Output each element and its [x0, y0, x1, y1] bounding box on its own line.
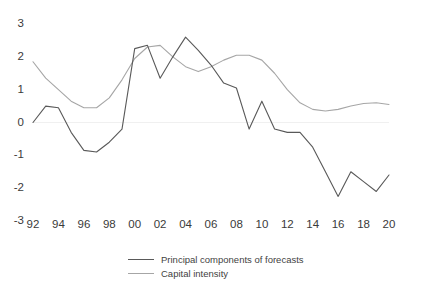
legend-item-capital-intensity: Capital intensity: [128, 266, 304, 280]
x-axis-tick-label: 10: [250, 219, 274, 231]
y-axis-tick-label: -2: [2, 182, 24, 194]
y-axis-tick-label: 3: [2, 18, 24, 30]
x-axis-tick-label: 00: [123, 219, 147, 231]
series-line-principal-components: [33, 37, 389, 196]
x-axis-tick-label: 16: [326, 219, 350, 231]
x-axis-tick-label: 94: [46, 219, 70, 231]
y-axis-tick-label: -1: [2, 149, 24, 161]
chart-legend: Principal components of forecasts Capita…: [128, 252, 304, 280]
series-canvas: [0, 0, 422, 240]
x-axis-tick-label: 12: [275, 219, 299, 231]
y-axis-tick-label: 1: [2, 84, 24, 96]
x-axis-tick-label: 08: [224, 219, 248, 231]
x-axis-tick-label: 14: [301, 219, 325, 231]
legend-label-principal-components: Principal components of forecasts: [161, 254, 304, 265]
plot-area: 3210-1-2-3 92949698000204060810121416182…: [0, 0, 422, 240]
x-axis-tick-label: 06: [199, 219, 223, 231]
x-axis-tick-label: 96: [72, 219, 96, 231]
x-axis-tick-label: 92: [21, 219, 45, 231]
x-axis-tick-label: 02: [148, 219, 172, 231]
legend-swatch-icon-principal-components: [128, 259, 154, 260]
x-axis-tick-label: 18: [352, 219, 376, 231]
y-axis-tick-label: 0: [2, 117, 24, 129]
x-axis-tick-label: 04: [174, 219, 198, 231]
series-line-capital-intensity: [33, 45, 389, 111]
legend-swatch-icon-capital-intensity: [128, 273, 154, 274]
x-axis-tick-label: 98: [97, 219, 121, 231]
y-axis-tick-label: 2: [2, 51, 24, 63]
legend-item-principal-components: Principal components of forecasts: [128, 252, 304, 266]
x-axis-tick-label: 20: [377, 219, 401, 231]
line-chart: 3210-1-2-3 92949698000204060810121416182…: [0, 0, 422, 301]
legend-label-capital-intensity: Capital intensity: [161, 268, 228, 279]
